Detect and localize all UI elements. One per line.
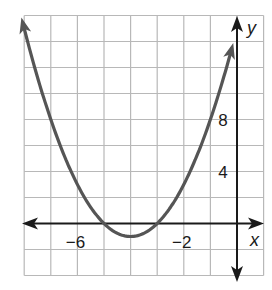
parabola-path xyxy=(23,23,232,236)
x-axis-label: x xyxy=(249,230,260,250)
x-tick-label: −6 xyxy=(66,233,85,252)
parabola-curve xyxy=(20,17,235,236)
y-axis-label: y xyxy=(245,18,257,38)
parabola-graph: −6−284 y x xyxy=(0,0,272,290)
y-tick-label: 8 xyxy=(218,111,227,130)
x-tick-label: −2 xyxy=(172,233,191,252)
y-tick-label: 4 xyxy=(218,163,227,182)
axes xyxy=(22,16,264,282)
